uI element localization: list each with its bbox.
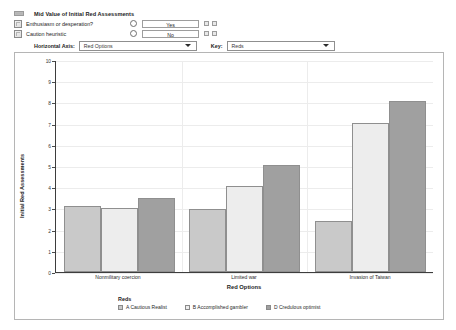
key-label: Key: (211, 43, 223, 49)
row-buttons-enthusiasm (204, 21, 217, 26)
window-icon (14, 11, 24, 16)
x-axis-title: Red Options (55, 284, 433, 290)
bar[interactable] (226, 186, 263, 271)
y-tick-label: 2 (48, 228, 51, 233)
bar-groups (56, 61, 433, 272)
bar[interactable] (101, 208, 138, 271)
key-value: Reds (228, 43, 244, 49)
chevron-down-icon (321, 42, 332, 50)
panel-title: Mid Value of Initial Red Assessments (34, 11, 134, 17)
x-tick-label: Nonmilitary coercion (55, 274, 181, 280)
bar[interactable] (315, 221, 352, 272)
legend-items: A Cautious RealistB Accomplished gambler… (118, 304, 433, 310)
bar[interactable] (189, 209, 226, 271)
legend-label: A Cautious Realist (126, 304, 167, 310)
y-tick-label: 8 (48, 101, 51, 106)
x-tick-label: Limited war (181, 274, 307, 280)
x-axis-tick-labels: Nonmilitary coercionLimited warInvasion … (55, 274, 433, 280)
panel-title-row: Mid Value of Initial Red Assessments (14, 9, 444, 19)
control-row-caution[interactable]: Caution heuristic No (14, 29, 444, 39)
control-row-enthusiasm[interactable]: Enthusiasm or desperation? Yes (14, 19, 444, 29)
y-tick-label: 10 (46, 59, 51, 64)
horizontal-axis-value: Red Options (80, 43, 113, 49)
y-tick-label: 0 (48, 271, 51, 276)
bar[interactable] (389, 101, 426, 272)
row-buttons-caution (204, 31, 217, 36)
y-axis-title: Initial Red Assessments (19, 154, 25, 218)
legend-item[interactable]: A Cautious Realist (118, 304, 167, 310)
y-tick-label: 5 (48, 165, 51, 170)
control-panel: Mid Value of Initial Red Assessments Ent… (14, 9, 444, 49)
y-tick-label: 6 (48, 143, 51, 148)
bar-group (307, 61, 433, 272)
legend-swatch (185, 305, 190, 310)
variable-icon (14, 30, 22, 38)
bar-group (56, 61, 182, 272)
horizontal-axis-dropdown[interactable]: Red Options (79, 41, 197, 51)
chevron-down-icon (183, 42, 194, 50)
value-field-enthusiasm[interactable]: Yes (142, 20, 199, 29)
key-dropdown[interactable]: Reds (227, 41, 335, 51)
y-tick-label: 3 (48, 207, 51, 212)
legend-label: D Credulous optimist (274, 304, 320, 310)
y-tick-label: 4 (48, 186, 51, 191)
plot-area: 109876543210 (55, 61, 433, 273)
legend: Reds A Cautious RealistB Accomplished ga… (118, 296, 433, 310)
copy-button[interactable] (204, 31, 209, 36)
bar-group (182, 61, 308, 272)
selector-row: Horizontal Axis: Red Options Key: Reds (14, 40, 444, 51)
legend-item[interactable]: B Accomplished gambler (185, 304, 248, 310)
bar[interactable] (263, 165, 300, 271)
legend-swatch (118, 305, 123, 310)
radio-caution[interactable] (130, 30, 137, 37)
chart-viewer-window: Mid Value of Initial Red Assessments Ent… (0, 0, 456, 330)
control-label-enthusiasm: Enthusiasm or desperation? (26, 21, 130, 27)
bar[interactable] (352, 123, 389, 271)
paste-button[interactable] (212, 21, 217, 26)
control-label-caution: Caution heuristic (26, 31, 130, 37)
legend-title: Reds (118, 296, 433, 302)
horizontal-axis-label: Horizontal Axis: (34, 43, 75, 49)
x-tick-label: Invasion of Taiwan (307, 274, 433, 280)
value-field-caution[interactable]: No (142, 30, 199, 39)
x-axis-line (55, 272, 433, 273)
copy-button[interactable] (204, 21, 209, 26)
legend-swatch (266, 305, 271, 310)
variable-icon (14, 20, 22, 28)
legend-item[interactable]: D Credulous optimist (266, 304, 320, 310)
bar[interactable] (64, 206, 101, 271)
y-tick-label: 7 (48, 122, 51, 127)
y-tick-label: 9 (48, 80, 51, 85)
bar[interactable] (138, 198, 175, 272)
y-tick-label: 1 (48, 249, 51, 254)
legend-label: B Accomplished gambler (193, 304, 248, 310)
radio-enthusiasm[interactable] (130, 20, 137, 27)
paste-button[interactable] (212, 31, 217, 36)
chart-card: Initial Red Assessments 109876543210 Non… (14, 52, 444, 320)
y-axis-line (55, 61, 56, 273)
